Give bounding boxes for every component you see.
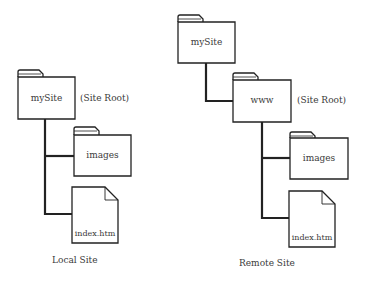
local-site-caption: Local Site [52,255,98,265]
remote-www-label: www [233,95,291,105]
local-site-root-note: (Site Root) [80,93,129,103]
remote-site-root-note: (Site Root) [297,95,346,105]
local-mysite-label: mySite [18,93,75,103]
local-images-label: images [74,150,131,160]
local-index-label: index.htm [72,229,118,238]
remote-images-label: images [290,153,348,163]
remote-site-caption: Remote Site [239,258,295,268]
remote-index-label: index.htm [289,233,335,242]
remote-mysite-label: mySite [178,37,235,47]
local-tree-connectors [45,119,74,214]
